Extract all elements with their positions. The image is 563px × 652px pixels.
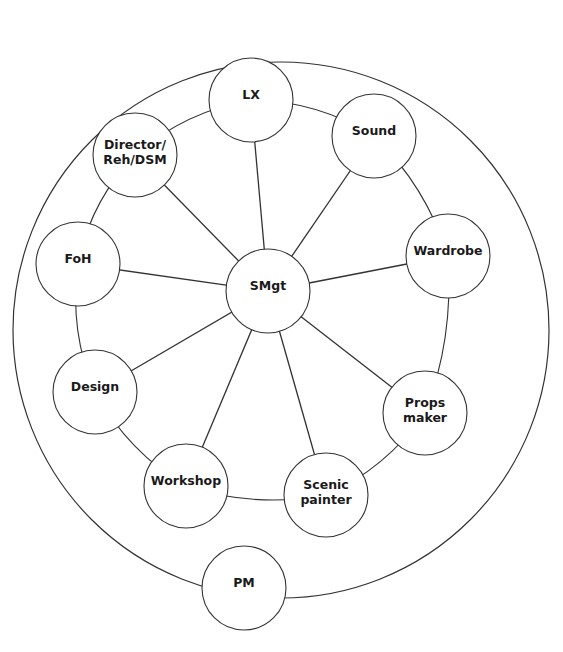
node-label-foh: FoH xyxy=(64,251,91,266)
node-label-smgt: SMgt xyxy=(250,278,286,293)
node-label-line: Reh/DSM xyxy=(103,152,166,167)
node-label-line: Director/ xyxy=(103,137,166,152)
node-label-wardrobe: Wardrobe xyxy=(413,243,482,258)
node-label-line: Props xyxy=(403,395,447,410)
node-label-line: SMgt xyxy=(250,278,286,293)
node-label-design: Design xyxy=(71,379,119,394)
node-label-director: Director/Reh/DSM xyxy=(103,137,166,167)
node-label-line: PM xyxy=(233,575,255,590)
node-label-line: Design xyxy=(71,379,119,394)
diagram-canvas xyxy=(0,0,563,652)
node-label-line: FoH xyxy=(64,251,91,266)
node-label-workshop: Workshop xyxy=(151,473,221,488)
node-label-line: Workshop xyxy=(151,473,221,488)
node-label-scenic-painter: Scenicpainter xyxy=(300,477,351,507)
node-label-line: Scenic xyxy=(300,477,351,492)
node-label-lx: LX xyxy=(242,87,260,102)
node-label-line: Wardrobe xyxy=(413,243,482,258)
node-label-sound: Sound xyxy=(352,123,396,138)
team-communication-diagram: LXSoundWardrobePropsmakerScenicpainterWo… xyxy=(0,0,563,652)
node-label-line: LX xyxy=(242,87,260,102)
node-label-line: painter xyxy=(300,492,351,507)
node-label-pm: PM xyxy=(233,575,255,590)
node-label-props-maker: Propsmaker xyxy=(403,395,447,425)
node-label-line: maker xyxy=(403,410,447,425)
node-label-line: Sound xyxy=(352,123,396,138)
